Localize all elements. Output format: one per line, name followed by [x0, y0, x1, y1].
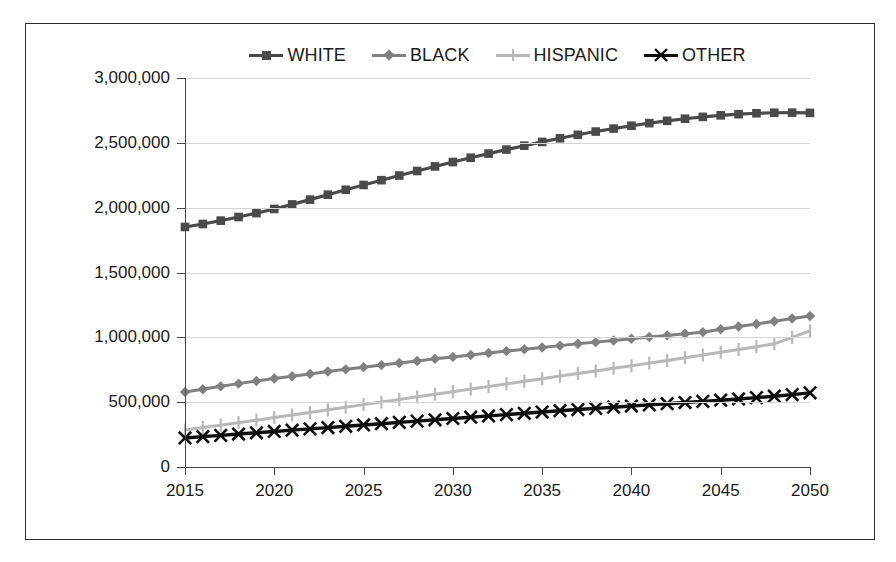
x-axis-tick-label: 2035 — [523, 481, 561, 501]
x-axis-tick-label: 2030 — [434, 481, 472, 501]
y-axis-tick — [177, 402, 185, 403]
x-axis-tick-label: 2020 — [255, 481, 293, 501]
x-axis-tick-label: 2025 — [345, 481, 383, 501]
x-axis-labels: 20152020202520302035204020452050 — [0, 0, 896, 562]
y-axis-tick — [177, 337, 185, 338]
x-axis-tick-label: 2045 — [702, 481, 740, 501]
population-projection-chart-figure: WHITE BLACK HISPANIC — [0, 0, 896, 562]
y-axis-tick — [177, 78, 185, 79]
y-axis-tick — [177, 143, 185, 144]
y-axis-tick — [177, 208, 185, 209]
x-axis-tick — [631, 467, 632, 475]
x-axis-tick-label: 2050 — [791, 481, 829, 501]
x-axis-tick — [364, 467, 365, 475]
y-axis-tick — [177, 467, 185, 468]
x-axis-tick — [810, 467, 811, 475]
x-axis-tick-label: 2015 — [166, 481, 204, 501]
x-axis-tick-label: 2040 — [613, 481, 651, 501]
x-axis-tick — [453, 467, 454, 475]
x-axis-tick — [274, 467, 275, 475]
x-axis-tick — [542, 467, 543, 475]
x-axis-tick — [185, 467, 186, 475]
y-axis-tick — [177, 273, 185, 274]
x-axis-tick — [721, 467, 722, 475]
